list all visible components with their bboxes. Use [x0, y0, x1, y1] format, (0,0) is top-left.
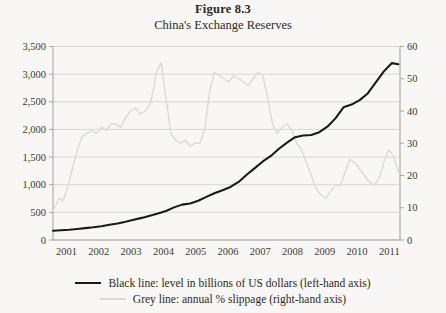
y2-axis-tick-label: 40 [407, 106, 418, 117]
y-axis-tick-label: 1,500 [22, 152, 46, 163]
y-axis-tick-label: 2,500 [22, 96, 46, 107]
x-axis-tick-label: 2002 [88, 246, 109, 257]
y-axis-tick-label: 0 [41, 235, 46, 246]
series-layer [53, 63, 398, 231]
grid-layer [53, 74, 400, 240]
x-axis-tick-label: 2005 [185, 246, 206, 257]
x-axis-tick-label: 2003 [121, 246, 142, 257]
axis-label-layer: 3,5003,0002,5002,0001,5001,0005000605040… [22, 41, 417, 257]
y2-axis-tick-label: 30 [407, 138, 418, 149]
y-axis-tick-label: 2,000 [22, 124, 46, 135]
x-axis-tick-label: 2009 [314, 246, 335, 257]
figure-container: Figure 8.3 China's Exchange Reserves 3,5… [0, 0, 446, 313]
y-axis-tick-label: 500 [30, 207, 46, 218]
x-axis-tick-label: 2011 [379, 246, 400, 257]
chart-svg: 3,5003,0002,5002,0001,5001,0005000605040… [0, 0, 446, 313]
x-axis-tick-label: 2001 [56, 246, 77, 257]
x-axis-tick-label: 2010 [347, 246, 368, 257]
y2-axis-tick-label: 60 [407, 41, 418, 52]
x-axis-tick-label: 2007 [250, 246, 271, 257]
y2-axis-tick-label: 0 [407, 235, 412, 246]
x-axis-tick-label: 2004 [153, 246, 175, 257]
y2-axis-tick-label: 50 [407, 73, 418, 84]
legend-item-grey: Grey line: annual % slippage (right-hand… [100, 292, 346, 306]
plot-area: 3,5003,0002,5002,0001,5001,0005000605040… [0, 0, 446, 313]
y-axis-tick-label: 3,500 [22, 41, 46, 52]
chart-legend: Black line: level in billions of US doll… [0, 276, 446, 306]
y-axis-tick-label: 3,000 [22, 69, 46, 80]
legend-label-black: Black line: level in billions of US doll… [108, 276, 370, 290]
legend-label-grey: Grey line: annual % slippage (right-hand… [133, 292, 346, 306]
axis-layer [49, 47, 404, 241]
legend-swatch-black-line [75, 282, 101, 284]
legend-swatch-grey-line [100, 298, 126, 300]
y2-axis-tick-label: 20 [407, 170, 418, 181]
series-line-black [53, 63, 398, 231]
x-axis-tick-label: 2006 [217, 246, 238, 257]
legend-item-black: Black line: level in billions of US doll… [75, 276, 370, 290]
y-axis-tick-label: 1,000 [22, 179, 46, 190]
y2-axis-tick-label: 10 [407, 202, 418, 213]
x-axis-tick-label: 2008 [282, 246, 303, 257]
